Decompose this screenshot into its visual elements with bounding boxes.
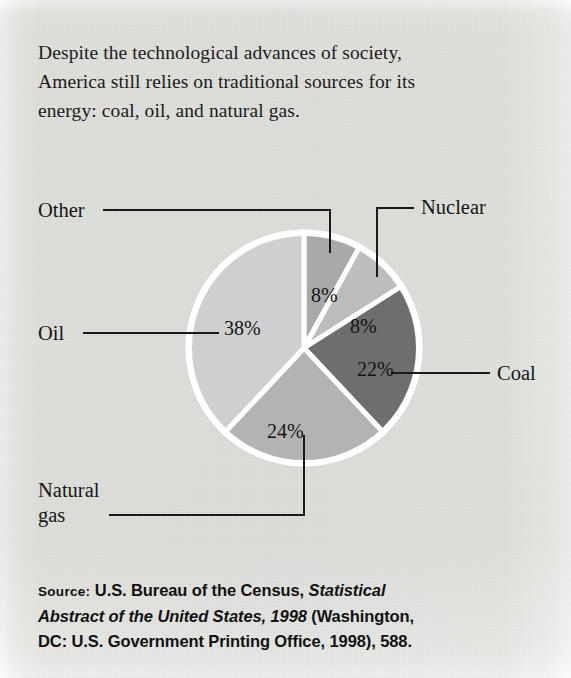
source-line-3: DC: U.S. Government Printing Office, 199… <box>38 629 508 654</box>
source-title-part-1: Statistical <box>309 581 386 599</box>
source-title-part-2: Abstract of the United States, 1998 <box>38 607 307 625</box>
figure-panel: Despite the technological advances of so… <box>0 0 571 678</box>
pie-value-other: 8% <box>311 284 338 307</box>
category-label-coal: Coal <box>497 361 536 386</box>
category-label-natural-gas: Natural gas <box>38 478 99 528</box>
caption-line-3: energy: coal, oil, and natural gas. <box>38 96 518 125</box>
pie-chart: 8% 8% 22% 24% 38% Other Nuclear Oil Coal… <box>0 168 571 558</box>
category-label-nuclear: Nuclear <box>421 195 486 220</box>
category-label-other: Other <box>38 198 85 223</box>
category-label-natural-gas-line2: gas <box>38 503 99 528</box>
source-line-2-rest: (Washington, <box>307 607 414 625</box>
pie-value-natural-gas: 24% <box>267 420 304 443</box>
source-prefix: Source: <box>38 584 90 599</box>
category-label-natural-gas-line1: Natural <box>38 478 99 503</box>
figure-caption: Despite the technological advances of so… <box>38 38 518 125</box>
pie-value-oil: 38% <box>224 317 261 340</box>
category-label-oil: Oil <box>38 321 64 346</box>
pie-value-nuclear: 8% <box>350 315 377 338</box>
source-line-1-rest: U.S. Bureau of the Census, <box>90 581 308 599</box>
pie-value-coal: 22% <box>357 358 394 381</box>
source-line-1: Source: U.S. Bureau of the Census, Stati… <box>38 578 508 604</box>
caption-line-2: America still relies on traditional sour… <box>38 67 518 96</box>
source-note: Source: U.S. Bureau of the Census, Stati… <box>38 578 508 654</box>
caption-line-1: Despite the technological advances of so… <box>38 38 518 67</box>
source-line-2: Abstract of the United States, 1998 (Was… <box>38 604 508 629</box>
